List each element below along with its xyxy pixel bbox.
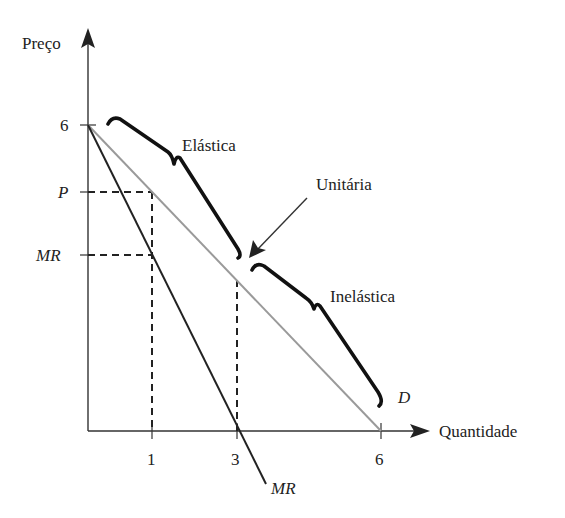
inelastic-label: Inelástica bbox=[330, 287, 396, 306]
x-axis-label: Quantidade bbox=[439, 422, 517, 441]
x-tick-label-6: 6 bbox=[375, 450, 384, 469]
elastic-label: Elástica bbox=[182, 136, 236, 155]
x-tick-label-3: 3 bbox=[231, 450, 240, 469]
mr-curve bbox=[88, 125, 266, 484]
y-axis-label: Preço bbox=[22, 34, 61, 53]
dashed-guides bbox=[88, 192, 237, 431]
demand-curve bbox=[88, 125, 381, 431]
unitary-label: Unitária bbox=[316, 175, 372, 194]
elasticity-diagram: Preço Quantidade 6 P MR 1 3 6 D MR Elást… bbox=[0, 0, 565, 518]
demand-label: D bbox=[397, 388, 411, 407]
unitary-arrow-line bbox=[257, 198, 307, 250]
inelastic-brace bbox=[252, 265, 381, 406]
y-tick-label-mr: MR bbox=[35, 246, 61, 265]
y-tick-label-6: 6 bbox=[60, 116, 69, 135]
y-axis bbox=[81, 28, 95, 431]
y-tick-label-p: P bbox=[57, 183, 68, 202]
mr-curve-label: MR bbox=[270, 479, 296, 498]
x-tick-label-1: 1 bbox=[147, 450, 156, 469]
x-axis bbox=[88, 424, 430, 438]
